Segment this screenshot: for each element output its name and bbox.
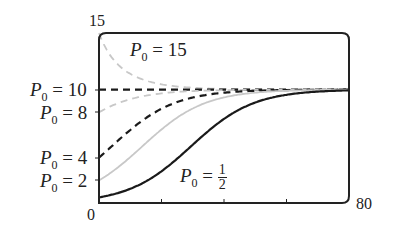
label-p0-8: P0 = 8 xyxy=(40,103,87,126)
y-max-label: 15 xyxy=(89,13,105,29)
label-p0-2: P0 = 2 xyxy=(40,171,87,194)
label-p0-15: P0 = 15 xyxy=(130,40,187,63)
x-max-label: 80 xyxy=(356,196,372,212)
curve-p0-4 xyxy=(99,90,349,158)
label-p0-half: P0 = 12 xyxy=(180,163,227,192)
fraction-one-half: 12 xyxy=(218,163,227,192)
label-p0-4: P0 = 4 xyxy=(40,148,87,171)
label-p0-10: P0 = 10 xyxy=(30,80,87,103)
x-min-label: 0 xyxy=(87,207,95,223)
